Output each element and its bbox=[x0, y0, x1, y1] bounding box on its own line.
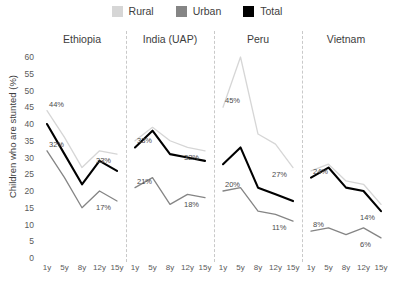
x-axis-tick: 5y bbox=[148, 263, 156, 272]
x-axis-tick: 12y bbox=[357, 263, 370, 272]
data-point-label: 32% bbox=[49, 140, 64, 149]
x-axis-tick: 1y bbox=[219, 263, 227, 272]
x-axis-tick: 12y bbox=[181, 263, 194, 272]
data-point-label: 21% bbox=[137, 177, 152, 186]
y-axis-tick: 50 bbox=[25, 86, 34, 96]
legend-item-urban[interactable]: Urban bbox=[176, 6, 222, 17]
data-point-label: 20% bbox=[225, 180, 240, 189]
x-axis-tick: 5y bbox=[60, 263, 68, 272]
stunting-line-chart: RuralUrbanTotal Children who are stunted… bbox=[0, 0, 394, 282]
x-axis-tick: 5y bbox=[236, 263, 244, 272]
y-axis-tick: 35 bbox=[25, 136, 34, 146]
x-axis-tick: 1y bbox=[131, 263, 139, 272]
x-axis-tick: 15y bbox=[111, 263, 124, 272]
y-axis-tick: 60 bbox=[25, 52, 34, 62]
data-point-label: 8% bbox=[313, 220, 324, 229]
x-axis-tick: 1y bbox=[307, 263, 315, 272]
data-point-label: 17% bbox=[96, 203, 111, 212]
y-axis-tick: 20 bbox=[25, 186, 34, 196]
panel-title-india-uap: India (UAP) bbox=[143, 33, 197, 45]
y-axis-tick: 5 bbox=[29, 236, 34, 246]
series-line-urban bbox=[311, 228, 381, 238]
data-point-label: 6% bbox=[360, 240, 371, 249]
x-axis-tick: 8y bbox=[78, 263, 86, 272]
legend-label: Urban bbox=[193, 6, 222, 17]
legend-item-total[interactable]: Total bbox=[243, 6, 282, 17]
x-axis-tick: 15y bbox=[199, 263, 212, 272]
data-point-label: 24% bbox=[313, 167, 328, 176]
legend-swatch-total-icon bbox=[243, 6, 254, 17]
data-point-label: 14% bbox=[360, 213, 375, 222]
series-line-rural bbox=[223, 57, 293, 168]
data-point-label: 33% bbox=[137, 136, 152, 145]
x-axis-tick: 15y bbox=[375, 263, 388, 272]
x-axis-tick: 5y bbox=[324, 263, 332, 272]
data-point-label: 27% bbox=[272, 170, 287, 179]
legend-label: Rural bbox=[129, 6, 154, 17]
y-axis-tick: 25 bbox=[25, 169, 34, 179]
series-line-urban bbox=[223, 188, 293, 222]
data-point-label: 32% bbox=[184, 153, 199, 162]
y-axis-tick: 55 bbox=[25, 69, 34, 79]
legend-item-rural[interactable]: Rural bbox=[112, 6, 154, 17]
data-point-label: 44% bbox=[49, 100, 64, 109]
y-axis-tick: 45 bbox=[25, 102, 34, 112]
panel-divider bbox=[214, 31, 215, 262]
plot-area: 0510152025303540455055601y5y8y12y15y1y5y… bbox=[38, 57, 390, 258]
x-axis-tick: 8y bbox=[166, 263, 174, 272]
x-axis-tick: 1y bbox=[43, 263, 51, 272]
data-point-label: 33% bbox=[96, 156, 111, 165]
data-point-label: 18% bbox=[184, 200, 199, 209]
panel-titles: EthiopiaIndia (UAP)PeruVietnam bbox=[0, 33, 394, 51]
panel-divider bbox=[302, 31, 303, 262]
chart-legend: RuralUrbanTotal bbox=[0, 6, 394, 17]
panel-divider bbox=[126, 31, 127, 262]
y-axis-tick: 15 bbox=[25, 203, 34, 213]
legend-swatch-rural-icon bbox=[112, 6, 123, 17]
x-axis-tick: 8y bbox=[254, 263, 262, 272]
x-axis-tick: 15y bbox=[287, 263, 300, 272]
y-axis-tick: 40 bbox=[25, 119, 34, 129]
series-line-total bbox=[47, 124, 117, 184]
legend-label: Total bbox=[260, 6, 282, 17]
x-axis-tick: 12y bbox=[269, 263, 282, 272]
legend-swatch-urban-icon bbox=[176, 6, 187, 17]
y-axis-tick: 0 bbox=[29, 253, 34, 263]
x-axis-tick: 12y bbox=[93, 263, 106, 272]
panel-title-ethiopia: Ethiopia bbox=[63, 33, 101, 45]
panel-title-vietnam: Vietnam bbox=[327, 33, 365, 45]
x-axis-tick: 8y bbox=[342, 263, 350, 272]
data-point-label: 11% bbox=[272, 223, 286, 232]
y-axis-tick: 30 bbox=[25, 153, 34, 163]
y-axis-label: Children who are stunted (%) bbox=[7, 37, 18, 237]
panel-title-peru: Peru bbox=[247, 33, 269, 45]
data-point-label: 45% bbox=[225, 96, 240, 105]
y-axis-tick: 10 bbox=[25, 220, 34, 230]
